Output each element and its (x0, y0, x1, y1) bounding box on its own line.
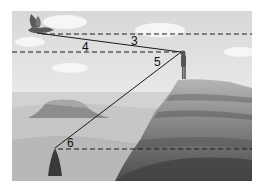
angles-diagram: 3 4 5 6 (0, 0, 264, 192)
angle-label-5: 5 (154, 55, 161, 69)
angle-label-3: 3 (131, 34, 138, 48)
angle-label-6: 6 (67, 136, 74, 150)
angle-label-4: 4 (82, 40, 89, 54)
